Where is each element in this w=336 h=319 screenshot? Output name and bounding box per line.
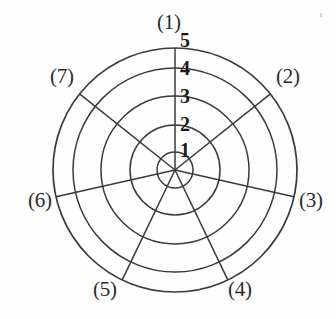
axis-label-2: (2) bbox=[276, 66, 300, 87]
axis-label-6: (6) bbox=[28, 190, 52, 211]
spoke-axis-4 bbox=[175, 170, 228, 280]
axis-label-1: (1) bbox=[157, 12, 181, 33]
radar-spokes bbox=[56, 48, 294, 280]
spoke-axis-7 bbox=[80, 94, 175, 170]
axis-label-7: (7) bbox=[50, 66, 74, 87]
radial-tick-4: 4 bbox=[180, 58, 190, 78]
axis-label-3: (3) bbox=[299, 190, 323, 211]
radial-tick-2: 2 bbox=[180, 114, 190, 134]
axis-label-5: (5) bbox=[93, 279, 117, 300]
spoke-axis-5 bbox=[122, 170, 175, 280]
radial-tick-3: 3 bbox=[180, 86, 190, 106]
radar-chart-figure: (1) (2) (3) (4) (5) (6) (7) 5 4 3 2 1 bbox=[0, 0, 336, 319]
radial-tick-1: 1 bbox=[180, 140, 190, 160]
radial-tick-5: 5 bbox=[180, 30, 190, 50]
radar-grid-svg bbox=[0, 0, 336, 319]
axis-label-4: (4) bbox=[228, 279, 252, 300]
